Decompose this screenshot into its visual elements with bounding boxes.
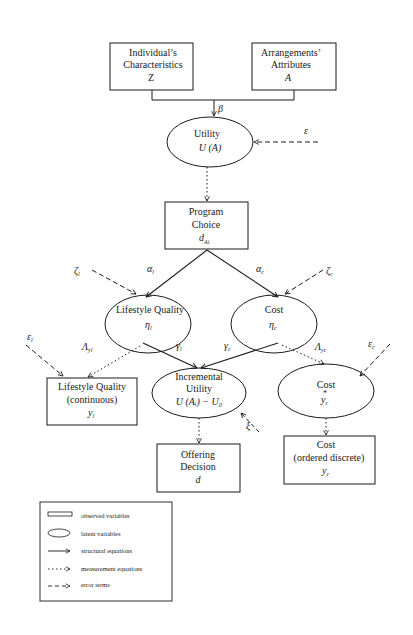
- incremental-utility-line1: Incremental: [175, 371, 223, 382]
- individual-line2: Characteristics: [123, 59, 183, 70]
- cost-star-superscript: *: [323, 389, 327, 398]
- program-choice-symbol: dAi: [199, 232, 210, 245]
- epsilon-c-label: εc: [368, 338, 375, 350]
- gamma-c-structural-arrow: γc: [201, 340, 278, 368]
- gamma-l-label: γl: [176, 340, 182, 352]
- program-choice-line2: Choice: [192, 219, 221, 230]
- lifestyle-quality-observed-box: Lifestyle Quality (continuous) yl: [47, 378, 137, 425]
- incremental-utility-symbol: U (Aᵢ) − U₀: [176, 396, 223, 408]
- cost-observed-line2: (ordered discrete): [294, 452, 365, 464]
- arrangements-line1: Arrangements’: [261, 47, 321, 58]
- cost-observed-line1: Cost: [317, 439, 336, 450]
- lifestyle-observed-line1: Lifestyle Quality: [58, 381, 126, 392]
- epsilon-c-error-arrow: εc: [360, 338, 390, 376]
- cost-observed-symbol: yc: [321, 465, 329, 477]
- individual-line1: Individual’s: [129, 47, 177, 58]
- gamma-c-label: γc: [224, 340, 231, 352]
- legend-ellipse-icon: [48, 529, 70, 537]
- lifestyle-latent-label: Lifestyle Quality: [116, 304, 184, 315]
- offering-decision-box: Offering Decision d: [157, 444, 240, 492]
- alpha-c-structural-arrow: αc: [207, 250, 278, 297]
- utility-symbol: U (A): [199, 142, 222, 154]
- individual-symbol: Z: [148, 72, 154, 83]
- arrangements-symbol: A: [284, 72, 292, 83]
- epsilon-error-arrow: ε: [254, 125, 318, 142]
- beta-structural-arrow: β: [152, 90, 294, 116]
- epsilon-label: ε: [304, 125, 308, 136]
- alpha-c-label: αc: [256, 263, 264, 275]
- zeta-c-error-arrow: ζc: [285, 265, 333, 294]
- lifestyle-observed-line2: (continuous): [67, 394, 118, 406]
- incremental-utility-line2: Utility: [186, 383, 212, 394]
- individual-characteristics-box: Individual’s Characteristics Z: [110, 43, 193, 90]
- lambda-c-label: Λyc: [314, 341, 327, 353]
- epsilon-l-label: εl: [27, 331, 33, 343]
- utility-ellipse: Utility U (A): [167, 117, 253, 167]
- lambda-l-label: Λyl: [81, 341, 93, 353]
- gamma-l-structural-arrow: γl: [143, 340, 197, 368]
- beta-label: β: [217, 103, 223, 114]
- zeta-l-label: ζl: [74, 265, 80, 277]
- legend-error-label: error terms: [81, 581, 110, 588]
- offering-line2: Decision: [180, 461, 216, 472]
- lambda-l-measurement-arrow: Λyl: [81, 341, 140, 377]
- zeta-c-label: ζc: [326, 265, 333, 277]
- program-choice-box: Program Choice dAi: [165, 202, 248, 249]
- alpha-l-structural-arrow: αl: [146, 250, 207, 297]
- utility-label: Utility: [194, 128, 220, 139]
- legend-measurement-label: measurement equations: [81, 565, 143, 572]
- cost-observed-box: Cost (ordered discrete) yc: [284, 436, 375, 484]
- xi-error-arrow: ξ: [241, 413, 259, 432]
- program-choice-line1: Program: [189, 206, 224, 217]
- arrangements-attributes-box: Arrangements’ Attributes A: [252, 43, 336, 90]
- cost-latent-label: Cost: [265, 304, 284, 315]
- lifestyle-observed-symbol: yl: [87, 407, 94, 419]
- xi-label: ξ: [246, 420, 251, 432]
- epsilon-l-error-arrow: εl: [26, 331, 63, 376]
- lifestyle-latent-symbol: ηl: [145, 319, 152, 331]
- offering-symbol: d: [196, 474, 202, 485]
- arrangements-line2: Attributes: [271, 59, 311, 70]
- zeta-l-error-arrow: ζl: [74, 265, 136, 294]
- legend-latent-label: latent variables: [81, 530, 121, 537]
- legend: observed variables latent variables stru…: [40, 502, 172, 601]
- legend-observed-label: observed variables: [81, 512, 130, 519]
- alpha-l-label: αl: [147, 263, 154, 275]
- cost-star-latent-ellipse: Cost yc *: [278, 364, 374, 418]
- legend-rectangle-icon: [48, 512, 72, 516]
- offering-line1: Offering: [181, 449, 215, 460]
- legend-structural-label: structural equations: [81, 547, 133, 554]
- sem-diagram: Individual’s Characteristics Z Arrangeme…: [0, 0, 413, 635]
- incremental-utility-ellipse: Incremental Utility U (Aᵢ) − U₀: [152, 368, 246, 418]
- cost-latent-symbol: ηc: [269, 319, 277, 331]
